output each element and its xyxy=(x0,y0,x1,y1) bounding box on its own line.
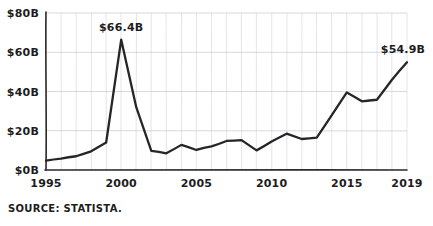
x-tick-label: 2015 xyxy=(331,177,362,190)
y-tick-label: $0B xyxy=(15,164,39,177)
x-tick-label: 1995 xyxy=(30,177,61,190)
source-note: SOURCE: STATISTA. xyxy=(8,203,122,214)
x-tick-label: 2005 xyxy=(181,177,212,190)
line-chart: $0B$20B$40B$60B$80B 19952000200520102015… xyxy=(0,0,433,226)
x-tick-label: 2010 xyxy=(256,177,288,190)
x-tick-label: 2019 xyxy=(391,177,422,190)
y-tick-label: $20B xyxy=(7,125,39,138)
y-axis-tick-labels: $0B$20B$40B$60B$80B xyxy=(7,7,39,177)
peak-label: $66.4B xyxy=(99,21,143,34)
x-axis-tick-labels: 199520002005201020152019 xyxy=(30,177,422,190)
y-tick-label: $60B xyxy=(7,46,39,59)
data-annotations: $66.4B$54.9B xyxy=(99,21,425,57)
y-tick-label: $40B xyxy=(7,86,39,99)
y-tick-label: $80B xyxy=(7,7,39,20)
chart-container: $0B$20B$40B$60B$80B 19952000200520102015… xyxy=(0,0,433,226)
last-value-label: $54.9B xyxy=(381,43,425,56)
x-tick-label: 2000 xyxy=(105,177,137,190)
